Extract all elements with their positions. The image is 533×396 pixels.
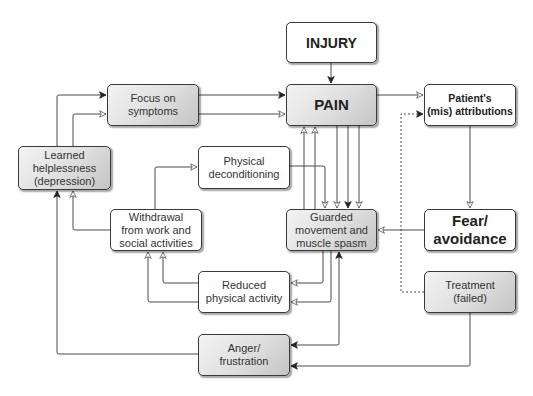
edge-deconditioning-guarded: [290, 166, 325, 208]
node-attributions-label: Patient's (mis) attributions: [427, 92, 513, 118]
node-pain-label: PAIN: [314, 96, 349, 114]
node-anger: Anger/ frustration: [198, 334, 290, 376]
node-withdrawal: Withdrawal from work and social activiti…: [110, 209, 202, 251]
node-guarded: Guarded movement and muscle spasm: [286, 209, 377, 251]
node-withdrawal-label: Withdrawal from work and social activiti…: [119, 211, 192, 250]
edge-reduced-withdrawal-1: [163, 252, 198, 283]
node-anger-label: Anger/ frustration: [220, 342, 269, 368]
node-treatment: Treatment (failed): [424, 271, 516, 313]
edge-withdrawal-helplessness: [73, 191, 110, 230]
edge-withdrawal-deconditioning: [155, 167, 197, 209]
node-treatment-label: Treatment (failed): [445, 279, 495, 305]
node-helplessness: Learned helplessness (depression): [18, 146, 111, 190]
node-helplessness-label: Learned helplessness (depression): [33, 149, 97, 188]
node-fear: Fear/ avoidance: [424, 209, 516, 251]
node-injury-label: INJURY: [306, 34, 357, 52]
node-guarded-label: Guarded movement and muscle spasm: [295, 211, 368, 250]
node-fear-label: Fear/ avoidance: [433, 212, 506, 248]
edge-anger-guarded: [291, 252, 339, 345]
edge-helplessness-focus-1: [57, 95, 106, 146]
node-deconditioning: Physical deconditioning: [198, 146, 290, 189]
edge-treatment-anger: [291, 313, 470, 366]
edge-guarded-reduced-1: [291, 251, 323, 283]
node-reduced-label: Reduced physical activity: [206, 279, 282, 305]
edge-reduced-withdrawal-2: [148, 252, 198, 302]
node-focus-label: Focus on symptoms: [128, 92, 178, 118]
edge-treatment-attributions: [401, 114, 424, 292]
node-pain: PAIN: [286, 84, 377, 126]
node-attributions: Patient's (mis) attributions: [424, 84, 516, 126]
edge-helplessness-focus-2: [73, 114, 106, 146]
edge-guarded-reduced-2: [291, 251, 331, 302]
node-deconditioning-label: Physical deconditioning: [209, 155, 280, 181]
node-reduced: Reduced physical activity: [198, 271, 290, 313]
node-injury: INJURY: [286, 22, 377, 63]
node-focus: Focus on symptoms: [107, 84, 199, 126]
